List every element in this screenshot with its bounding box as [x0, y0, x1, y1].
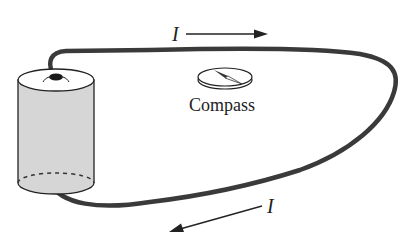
compass: Compass — [189, 68, 255, 115]
battery — [18, 69, 94, 194]
current-arrow-bottom: I — [169, 195, 275, 232]
current-label-top: I — [171, 23, 180, 45]
arrowhead-down-left-icon — [169, 224, 184, 233]
battery-terminal — [49, 74, 63, 81]
compass-label: Compass — [189, 95, 255, 115]
arrow-line-bottom — [180, 206, 262, 229]
current-arrow-top: I — [171, 23, 268, 45]
battery-body — [18, 80, 94, 194]
battery-compass-diagram: Compass I I — [0, 0, 417, 244]
arrowhead-right-icon — [254, 30, 268, 39]
current-label-bottom: I — [266, 195, 275, 217]
